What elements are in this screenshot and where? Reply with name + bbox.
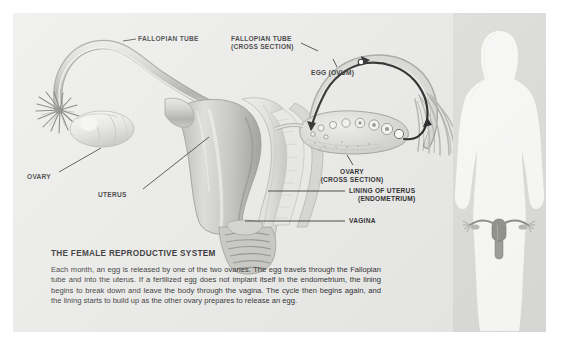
uterus-body [165, 98, 261, 234]
silhouette-panel [453, 13, 546, 332]
label-uterus: UTERUS [98, 191, 127, 199]
label-fallopian-tube: FALLOPIAN TUBE [138, 35, 199, 43]
label-vagina: VAGINA [349, 217, 376, 225]
illustration-panel: FALLOPIAN TUBE FALLOPIAN TUBE (CROSS SEC… [13, 13, 546, 332]
released-egg-icon [394, 129, 403, 138]
label-fallopian-tube-cross-section-line2: (CROSS SECTION) [231, 43, 294, 51]
caption-block: THE FEMALE REPRODUCTIVE SYSTEM Each mont… [51, 249, 381, 306]
label-lining-of-uterus-line2: (ENDOMETRIUM) [358, 195, 415, 203]
label-egg-ovum: EGG (OVUM) [311, 69, 354, 77]
ovary-cross-section [300, 111, 409, 154]
egg-dot-icon [358, 59, 364, 65]
label-ovary-cross-section-line2: (CROSS SECTION) [303, 176, 401, 184]
female-body-silhouette [453, 13, 546, 332]
caption-title: THE FEMALE REPRODUCTIVE SYSTEM [51, 249, 381, 258]
caption-body: Each month, an egg is released by one of… [51, 265, 381, 306]
diagram-page: FALLOPIAN TUBE FALLOPIAN TUBE (CROSS SEC… [0, 0, 563, 347]
ovary-left [70, 111, 134, 147]
label-ovary: OVARY [27, 173, 51, 181]
